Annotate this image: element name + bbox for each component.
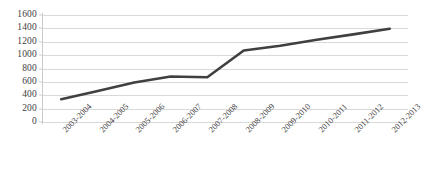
- line-chart: 02004006008001000120014001600 2003-20042…: [0, 0, 421, 188]
- y-tick-label: 1400: [17, 24, 37, 34]
- y-tick-label: 800: [22, 64, 37, 74]
- y-tick-label: 1200: [17, 37, 37, 47]
- y-tick-mark: [39, 122, 42, 123]
- y-tick-label: 1600: [17, 10, 37, 20]
- plot-area: [43, 15, 408, 122]
- y-tick-mark: [39, 28, 42, 29]
- y-tick-mark: [39, 55, 42, 56]
- y-tick-label: 1000: [17, 50, 37, 60]
- y-tick-mark: [39, 95, 42, 96]
- y-tick-label: 400: [22, 91, 37, 101]
- y-tick-label: 0: [32, 117, 37, 127]
- y-tick-mark: [39, 68, 42, 69]
- y-tick-mark: [39, 41, 42, 42]
- y-tick-label: 200: [22, 104, 37, 114]
- y-tick-mark: [39, 81, 42, 82]
- y-tick-mark: [39, 108, 42, 109]
- y-tick-label: 600: [22, 77, 37, 87]
- y-axis: 02004006008001000120014001600: [0, 0, 43, 137]
- x-axis: 2003-20042004-20052005-20062006-20072007…: [43, 122, 408, 188]
- y-tick-mark: [39, 15, 42, 16]
- series-line: [61, 29, 390, 100]
- series-line-layer: [43, 15, 408, 122]
